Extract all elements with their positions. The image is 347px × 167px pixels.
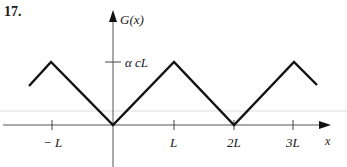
x-axis-label: x — [325, 135, 330, 147]
y-axis-arrow-icon — [109, 10, 117, 22]
x-tick-label-3L: 3L — [286, 136, 300, 149]
x-tick-label-neg-L: − L — [43, 136, 62, 149]
triangular-wave-curve — [29, 62, 317, 125]
y-tick-label: α cL — [125, 56, 148, 69]
x-axis-arrow-icon — [319, 121, 331, 129]
x-tick-label-2L: 2L — [227, 136, 241, 149]
x-tick-label-L: L — [170, 136, 177, 149]
y-axis-label: G(x) — [120, 13, 144, 26]
